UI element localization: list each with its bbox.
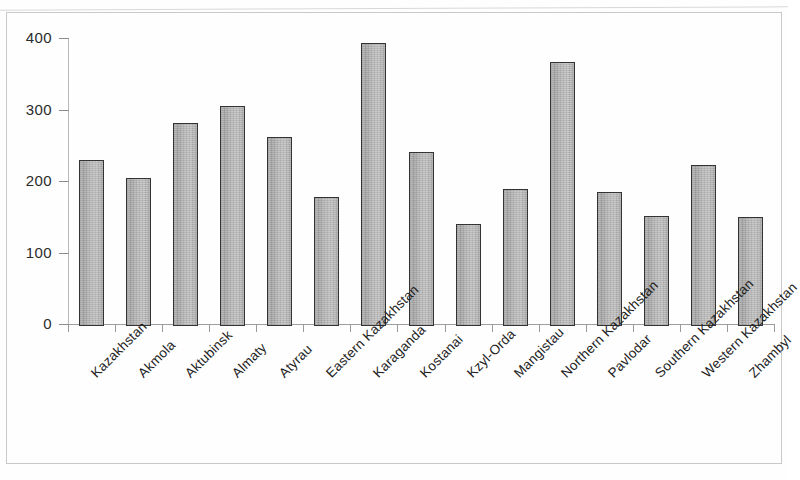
y-axis-tick-label: 300 (26, 101, 52, 118)
bar (503, 189, 528, 326)
bar (644, 216, 669, 326)
bar (597, 192, 622, 326)
x-axis-label: Pavlodar (605, 331, 654, 380)
x-axis-tick (68, 324, 69, 332)
y-axis-tick: 200 (59, 181, 69, 182)
bar (126, 178, 151, 326)
bar (456, 224, 481, 326)
x-axis-labels: KazakhstanAkmolaAktubinskAlmatyAtyrauEas… (68, 30, 774, 180)
bar (79, 160, 104, 326)
x-axis-label: Akmola (135, 337, 178, 380)
x-axis-label: Zhambyl (746, 332, 794, 380)
x-axis-tick (539, 324, 540, 332)
x-axis-tick (492, 324, 493, 332)
x-axis-tick (680, 324, 681, 332)
x-axis-tick (445, 324, 446, 332)
x-axis-label: Kostanai (417, 332, 466, 381)
y-axis-tick-label: 100 (26, 244, 52, 261)
x-axis-tick (633, 324, 634, 332)
x-axis-tick (115, 324, 116, 332)
y-axis-tick-label: 200 (26, 172, 52, 189)
x-axis-tick (256, 324, 257, 332)
x-axis-tick (774, 324, 775, 332)
y-axis-tick-label: 400 (26, 29, 52, 46)
x-axis-label: Kzyl-Orda (464, 326, 518, 380)
x-axis-label: Mangistau (511, 325, 567, 381)
x-axis-tick (303, 324, 304, 332)
x-axis-tick (162, 324, 163, 332)
y-axis-tick: 100 (59, 253, 69, 254)
x-axis-label: Atyrau (276, 342, 315, 381)
x-axis-label: Aktubinsk (182, 327, 235, 380)
page-edge-line (0, 6, 788, 10)
x-axis-tick (397, 324, 398, 332)
x-axis-tick (727, 324, 728, 332)
bar (314, 197, 339, 326)
x-axis-tick (586, 324, 587, 332)
x-axis-tick (350, 324, 351, 332)
y-axis-tick-label: 0 (43, 315, 52, 332)
x-axis-label: Almaty (229, 340, 270, 381)
bar (691, 165, 716, 326)
x-axis-tick (209, 324, 210, 332)
